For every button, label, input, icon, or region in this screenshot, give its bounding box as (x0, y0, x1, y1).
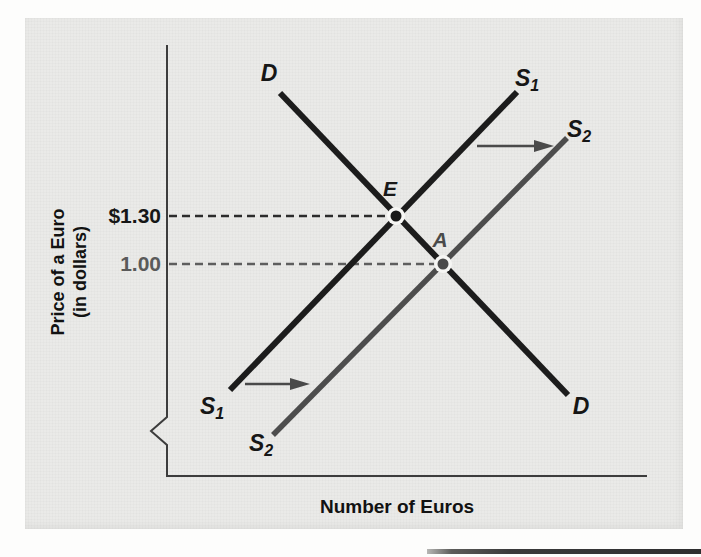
s1-label-bottom-sub: 1 (215, 405, 224, 422)
d-label-bottom: D (573, 393, 590, 419)
y-axis-title-line2: (in dollars) (70, 226, 90, 318)
d-label-top: D (261, 60, 278, 86)
point-e-label: E (383, 177, 398, 200)
s1-label-bottom: S1 (200, 393, 224, 422)
shift-arrow-upper-head-icon (534, 140, 554, 152)
shift-arrow-lower-head-icon (290, 378, 310, 390)
y-tick-label-1-00: 1.00 (120, 252, 161, 275)
supply-curve-s2 (273, 138, 567, 435)
s2-label-top-base: S (567, 116, 583, 142)
point-a-dot (438, 259, 449, 270)
supply-curve-s1 (230, 92, 517, 390)
s1-label-top-base: S (515, 65, 531, 91)
figure-panel: D D S1 S1 S2 S2 E A $1.30 1.00 Price of … (25, 18, 683, 529)
point-a-marker (434, 255, 452, 273)
shift-arrow-lower (245, 378, 310, 390)
s1-label-top-sub: 1 (530, 77, 539, 94)
s2-label-bottom: S2 (249, 430, 273, 459)
point-e-marker (387, 207, 405, 225)
point-a-label: A (431, 228, 447, 251)
s1-label-bottom-base: S (200, 393, 216, 419)
supply-demand-chart: D D S1 S1 S2 S2 E A $1.30 1.00 Price of … (25, 18, 683, 529)
s2-label-bottom-base: S (249, 430, 265, 456)
s2-label-top-sub: 2 (581, 128, 591, 145)
scanned-textbook-page: D D S1 S1 S2 S2 E A $1.30 1.00 Price of … (0, 0, 701, 557)
page-edge-scan-bar (427, 549, 701, 554)
shift-arrow-upper (477, 140, 554, 152)
demand-curve-d (280, 93, 568, 395)
x-axis-title: Number of Euros (320, 496, 474, 517)
s2-label-top: S2 (567, 116, 591, 145)
y-tick-label-1-30: $1.30 (108, 204, 161, 227)
s1-label-top: S1 (515, 65, 539, 94)
point-e-dot (391, 211, 402, 222)
y-axis-title-line1: Price of a Euro (48, 208, 68, 335)
s2-label-bottom-sub: 2 (263, 442, 273, 459)
